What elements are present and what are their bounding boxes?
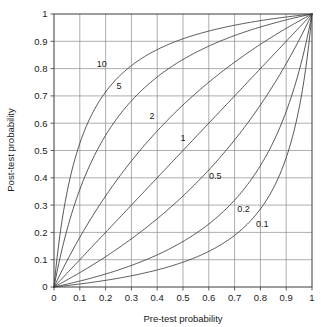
curve-label-0.5: 0.5 (209, 171, 222, 181)
y-tick-label: 0.9 (34, 36, 47, 47)
x-tick-label: 1 (309, 292, 314, 303)
y-tick-label: 0.8 (34, 63, 47, 74)
y-tick-label: 0.2 (34, 227, 47, 238)
x-tick-label: 0.3 (125, 292, 138, 303)
curve-label-2: 2 (150, 111, 155, 121)
x-tick-label: 0.1 (73, 292, 86, 303)
x-axis-title: Pre-test probability (143, 313, 222, 324)
x-tick-label: 0.8 (254, 292, 267, 303)
x-tick-label: 0.6 (202, 292, 215, 303)
curve-label-0.2: 0.2 (237, 204, 250, 214)
chart-figure: 00.10.20.30.40.50.60.70.80.91 00.10.20.3… (0, 0, 324, 327)
curve-label-10: 10 (97, 59, 107, 69)
curve-label-5: 5 (117, 81, 122, 91)
x-tick-label: 0.2 (99, 292, 112, 303)
curve-label-1: 1 (180, 133, 185, 143)
y-axis-title: Post-test probability (5, 108, 16, 192)
y-tick-label: 0.4 (34, 172, 47, 183)
y-tick-label: 0.5 (34, 145, 47, 156)
x-tick-label: 0 (51, 292, 56, 303)
nomogram-chart: 00.10.20.30.40.50.60.70.80.91 00.10.20.3… (0, 0, 324, 327)
x-tick-label: 0.7 (228, 292, 241, 303)
y-tick-label: 1 (42, 8, 47, 19)
y-tick-label: 0.6 (34, 118, 47, 129)
x-tick-label: 0.5 (176, 292, 189, 303)
x-tick-label: 0.4 (151, 292, 164, 303)
y-tick-label: 0.7 (34, 90, 47, 101)
y-tick-label: 0.3 (34, 200, 47, 211)
y-tick-label: 0.1 (34, 254, 47, 265)
curve-label-0.1: 0.1 (256, 219, 269, 229)
chart-background (0, 0, 324, 327)
y-tick-label: 0 (42, 281, 47, 292)
x-tick-label: 0.9 (280, 292, 293, 303)
